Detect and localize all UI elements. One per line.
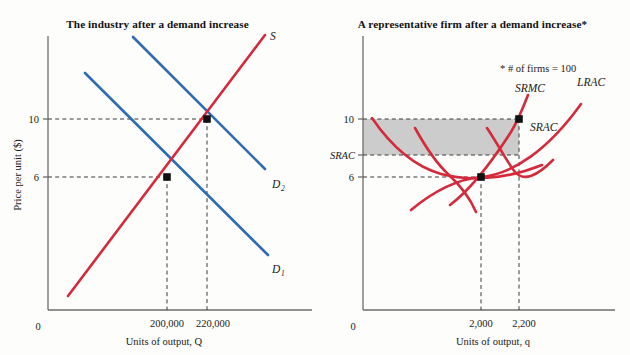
industry-origin-label: 0 <box>35 321 40 332</box>
industry-y-ticklabel-10: 10 <box>29 114 40 125</box>
lrac-curve-label: LRAC <box>576 76 605 88</box>
firm-y-ticklabel-srac: SRAC <box>330 150 356 161</box>
srac-curve-label: SRAC <box>530 121 558 133</box>
firm-equilibrium-dot-longrun <box>477 173 485 181</box>
firm-x-axis-label: Units of output, q <box>456 336 531 347</box>
representative-firm-chart-svg: 10 SRAC 6 2,000 2,200 0 Units of output,… <box>315 0 630 355</box>
srmc-curve-label: SRMC <box>515 82 545 94</box>
industry-y-ticklabel-6: 6 <box>34 172 39 183</box>
demand-curve-d2 <box>133 37 265 169</box>
industry-y-axis-label: Price per unit ($) <box>12 139 24 211</box>
industry-equilibrium-dot-initial <box>163 173 171 181</box>
supply-curve-label: S <box>270 30 276 42</box>
representative-firm-panel: A representative firm after a demand inc… <box>315 0 630 355</box>
firm-y-ticklabel-6: 6 <box>349 172 354 183</box>
firm-x-ticklabel-2200: 2,200 <box>512 318 536 329</box>
industry-x-axis-label: Units of output, Q <box>126 336 203 347</box>
industry-equilibrium-dot-new <box>203 115 211 123</box>
demand-curve-d1-label: D <box>271 263 281 275</box>
industry-x-ticklabel-200000: 200,000 <box>150 318 184 329</box>
firm-y-ticklabel-10: 10 <box>344 114 355 125</box>
demand-curve-d1-subscript: 1 <box>281 269 285 278</box>
demand-curve-d2-subscript: 2 <box>281 184 285 193</box>
industry-x-ticklabel-220000: 220,000 <box>196 318 230 329</box>
industry-panel: The industry after a demand increase 10 … <box>0 0 315 355</box>
firm-equilibrium-dot-shortrun <box>515 115 523 123</box>
industry-chart-svg: 10 6 200,000 220,000 0 Units of output, … <box>0 0 315 355</box>
firm-footnote: * # of firms = 100 <box>500 63 576 74</box>
demand-curve-d1 <box>85 73 268 255</box>
demand-curve-d2-label: D <box>271 178 281 190</box>
firm-origin-label: 0 <box>350 321 355 332</box>
firm-x-ticklabel-2000: 2,000 <box>469 318 493 329</box>
